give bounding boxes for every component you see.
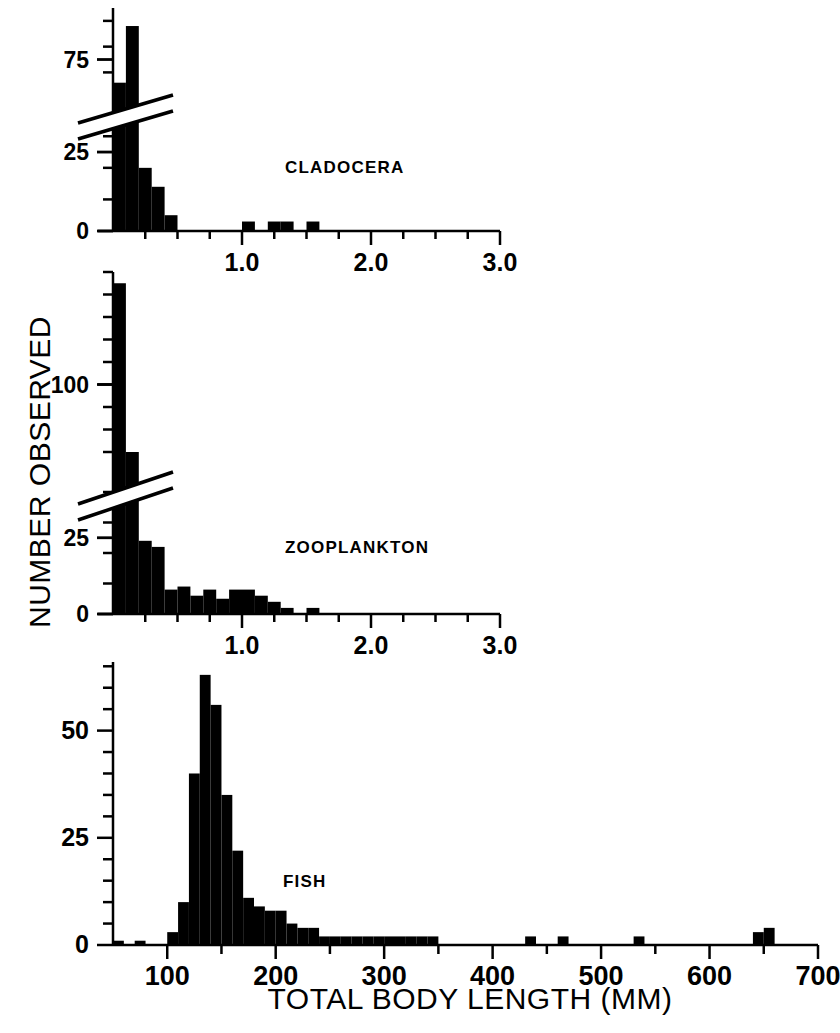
x-tick-label: 2.0 [354, 631, 389, 659]
bar [395, 936, 406, 945]
x-tick-label: 1.0 [225, 248, 260, 276]
bar [384, 936, 395, 945]
bar [189, 773, 200, 945]
bar [152, 187, 165, 231]
bar [178, 587, 191, 614]
y-tick-label: 25 [63, 139, 89, 165]
x-ticks-cladocera: 1.02.03.0 [145, 231, 517, 276]
bar [406, 936, 417, 945]
bar [558, 936, 569, 945]
bar [165, 215, 178, 231]
bar [265, 911, 276, 945]
y-tick-label: 25 [63, 525, 89, 551]
bar [268, 602, 281, 614]
panel-fish: 02550100200300400500600700 [61, 662, 840, 991]
bar [362, 936, 373, 945]
bar [126, 452, 139, 614]
bar [297, 928, 308, 945]
x-axis-title: TOTAL BODY LENGTH (MM) [120, 982, 820, 1016]
bar [268, 222, 281, 231]
y-tick-label: 25 [61, 823, 89, 851]
bars-fish [113, 675, 775, 945]
y-tick-label: 50 [61, 716, 89, 744]
bar [308, 928, 319, 945]
bar [139, 168, 152, 231]
bar [232, 851, 243, 945]
bar [216, 599, 229, 614]
panel-label-zooplankton: ZOOPLANKTON [285, 538, 429, 558]
bar [330, 936, 341, 945]
y-axis-title: NUMBER OBSERVED [23, 292, 57, 652]
bar [165, 590, 178, 614]
bar [428, 936, 439, 945]
panel-label-fish: FISH [283, 872, 327, 892]
y-ticks-zooplankton: 025100 [51, 272, 113, 627]
bar [113, 283, 126, 614]
bar [139, 541, 152, 614]
y-tick-label: 0 [75, 930, 89, 958]
bar [242, 222, 255, 231]
bar [307, 222, 320, 231]
bar [126, 26, 139, 231]
panel-label-cladocera: CLADOCERA [285, 158, 404, 178]
x-tick-label: 1.0 [225, 631, 260, 659]
y-ticks-fish: 02550 [61, 666, 113, 958]
bar [634, 936, 645, 945]
bar [203, 590, 216, 614]
y-tick-label: 75 [63, 47, 89, 73]
bar [178, 902, 189, 945]
x-tick-label: 3.0 [483, 631, 518, 659]
bar [211, 705, 222, 945]
histogram-plots: 025751.02.03.00251001.02.03.002550100200… [0, 0, 840, 1033]
bar [373, 936, 384, 945]
x-ticks-zooplankton: 1.02.03.0 [145, 614, 517, 659]
bar [113, 83, 126, 231]
bar [200, 675, 211, 945]
bars-zooplankton [113, 283, 319, 614]
bar [190, 596, 203, 614]
bar [287, 924, 298, 945]
bar [319, 936, 330, 945]
y-tick-label: 0 [76, 218, 89, 244]
y-tick-label: 0 [76, 601, 89, 627]
bar [753, 932, 764, 945]
bar [341, 936, 352, 945]
bar [152, 547, 165, 614]
bar [221, 795, 232, 945]
bar [276, 911, 287, 945]
bar [243, 898, 254, 945]
bar [255, 596, 268, 614]
bar [417, 936, 428, 945]
bar [167, 932, 178, 945]
bars-cladocera [113, 26, 319, 231]
figure-container: NUMBER OBSERVED TOTAL BODY LENGTH (MM) C… [0, 0, 840, 1033]
bar [229, 590, 242, 614]
bar [242, 590, 255, 614]
bar [352, 936, 363, 945]
x-tick-label: 2.0 [354, 248, 389, 276]
panel-cladocera: 025751.02.03.0 [63, 8, 517, 276]
x-tick-label: 3.0 [483, 248, 518, 276]
bar [764, 928, 775, 945]
panel-zooplankton: 0251001.02.03.0 [51, 272, 518, 659]
bar [254, 906, 265, 945]
bar [525, 936, 536, 945]
bar [281, 222, 294, 231]
